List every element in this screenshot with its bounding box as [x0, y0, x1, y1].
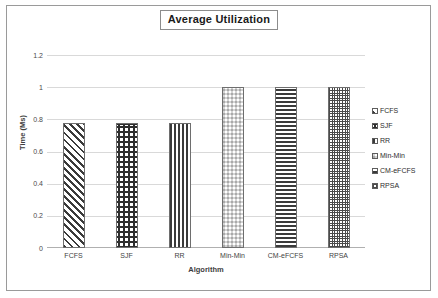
- legend-item-min-min[interactable]: Min-Min: [372, 149, 428, 163]
- plot-area: [47, 55, 365, 248]
- gridline: [47, 184, 365, 185]
- bar-cm-efcfs[interactable]: [275, 87, 297, 248]
- legend-item-sjf[interactable]: SJF: [372, 119, 428, 133]
- x-tick-label: FCFS: [44, 252, 104, 260]
- legend-item-cm-efcfs[interactable]: CM-eFCFS: [372, 164, 428, 178]
- legend-item-label: RPSA: [380, 182, 399, 190]
- x-tick-label: SJF: [97, 252, 157, 260]
- legend-item-rr[interactable]: RR: [372, 134, 428, 148]
- bar-min-min[interactable]: [222, 87, 244, 248]
- chart-container: Average Utilization Time (Ms) 00.20.40.6…: [0, 0, 438, 298]
- chart-legend: FCFSSJFRRMin-MinCM-eFCFSRPSA: [372, 104, 428, 194]
- y-tick-label: 0.4: [17, 180, 43, 187]
- gridline: [47, 152, 365, 153]
- y-tick-label: 0.2: [17, 212, 43, 219]
- legend-swatch-icon: [372, 153, 378, 159]
- legend-swatch-icon: [372, 108, 378, 114]
- y-tick-label: 0.6: [17, 148, 43, 155]
- gridline: [47, 87, 365, 88]
- x-tick-label: Min-Min: [203, 252, 263, 260]
- legend-swatch-icon: [372, 138, 378, 144]
- legend-item-fcfs[interactable]: FCFS: [372, 104, 428, 118]
- legend-swatch-icon: [372, 183, 378, 189]
- legend-item-label: FCFS: [380, 107, 398, 115]
- chart-title-container: Average Utilization: [0, 9, 438, 30]
- page-title: Average Utilization: [160, 10, 278, 30]
- x-tick-label: RPSA: [309, 252, 369, 260]
- gridline: [47, 119, 365, 120]
- x-tick-label: CM-eFCFS: [256, 252, 316, 260]
- legend-swatch-icon: [372, 123, 378, 129]
- legend-swatch-icon: [372, 168, 378, 174]
- legend-item-rpsa[interactable]: RPSA: [372, 179, 428, 193]
- x-axis-title: Algorithm: [47, 265, 365, 274]
- legend-item-label: SJF: [380, 122, 392, 130]
- bar-fcfs[interactable]: [63, 123, 85, 248]
- legend-item-label: Min-Min: [380, 152, 405, 160]
- gridline: [47, 216, 365, 217]
- legend-item-label: CM-eFCFS: [380, 167, 415, 175]
- y-axis-tick-labels: 00.20.40.60.811.2: [17, 55, 43, 248]
- bar-sjf[interactable]: [116, 123, 138, 248]
- bar-rr[interactable]: [169, 123, 191, 248]
- bar-rpsa[interactable]: [328, 87, 350, 248]
- gridline: [47, 55, 365, 56]
- y-tick-label: 0.8: [17, 116, 43, 123]
- y-tick-label: 0: [17, 245, 43, 252]
- legend-item-label: RR: [380, 137, 390, 145]
- y-tick-label: 1.2: [17, 52, 43, 59]
- x-tick-label: RR: [150, 252, 210, 260]
- x-axis-line: [47, 247, 365, 248]
- y-tick-label: 1: [17, 84, 43, 91]
